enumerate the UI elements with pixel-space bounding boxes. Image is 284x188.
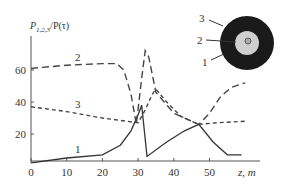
y-tick-label: 60 — [15, 64, 27, 76]
leader-1 — [211, 54, 224, 60]
y-tick-label: 40 — [15, 96, 27, 108]
y-tick-label: 20 — [15, 128, 27, 140]
x-axis-label: z, m — [237, 166, 256, 178]
y-axis-label: P1,2,3/P(τ) — [29, 20, 69, 34]
x-tick-label: 50 — [204, 166, 216, 178]
inset-label-1: 1 — [202, 56, 208, 68]
curve-label-3: 3 — [75, 98, 81, 110]
curve-label-2: 2 — [75, 51, 81, 63]
leader-3 — [209, 20, 223, 26]
x-tick-label: 40 — [168, 166, 180, 178]
chart: P1,2,3/P(τ) 01020304050 204060 z, m 1 2 … — [0, 0, 284, 188]
inset-label-3: 3 — [199, 12, 205, 24]
curve-label-1: 1 — [75, 143, 81, 155]
series-1-line — [31, 105, 242, 163]
x-tick-label: 20 — [97, 166, 109, 178]
inset-cross-section: 3 2 1 — [197, 12, 274, 70]
x-tick-label: 0 — [28, 166, 34, 178]
core — [245, 38, 251, 44]
inset-label-2: 2 — [197, 34, 203, 46]
x-tick-label: 30 — [133, 166, 145, 178]
x-tick-label: 10 — [61, 166, 73, 178]
